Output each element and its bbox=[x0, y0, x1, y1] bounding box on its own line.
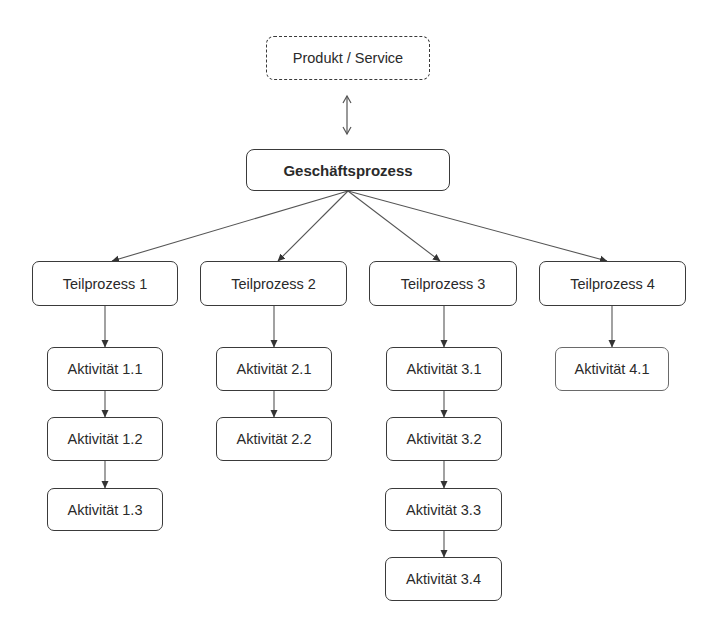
subprocess-label: Teilprozess 4 bbox=[570, 276, 655, 292]
subprocess-node-3: Teilprozess 3 bbox=[369, 261, 517, 306]
activity-node-3-3: Aktivität 3.3 bbox=[385, 488, 502, 531]
activity-node-3-1: Aktivität 3.1 bbox=[386, 347, 502, 391]
activity-node-1-2: Aktivität 1.2 bbox=[47, 417, 163, 461]
activity-label: Aktivität 3.2 bbox=[407, 431, 482, 447]
activity-node-1-1: Aktivität 1.1 bbox=[47, 347, 163, 391]
subprocess-node-1: Teilprozess 1 bbox=[32, 261, 178, 306]
activity-node-3-2: Aktivität 3.2 bbox=[386, 417, 502, 461]
activity-label: Aktivität 2.1 bbox=[237, 361, 312, 377]
connectors-layer bbox=[0, 0, 716, 633]
diagram-canvas: Produkt / Service Geschäftsprozess Teilp… bbox=[0, 0, 716, 633]
subprocess-node-4: Teilprozess 4 bbox=[539, 261, 686, 306]
subprocess-label: Teilprozess 1 bbox=[63, 276, 148, 292]
activity-label: Aktivität 3.4 bbox=[406, 571, 481, 587]
activity-node-1-3: Aktivität 1.3 bbox=[47, 488, 163, 531]
activity-label: Aktivität 1.2 bbox=[68, 431, 143, 447]
activity-label: Aktivität 1.3 bbox=[68, 502, 143, 518]
activity-node-4-1: Aktivität 4.1 bbox=[555, 347, 669, 391]
activity-label: Aktivität 2.2 bbox=[237, 431, 312, 447]
activity-label: Aktivität 3.1 bbox=[407, 361, 482, 377]
activity-label: Aktivität 4.1 bbox=[575, 361, 650, 377]
subprocess-label: Teilprozess 3 bbox=[401, 276, 486, 292]
edge-root-to-teilprozess-3 bbox=[348, 191, 440, 261]
root-node-geschaeftsprozess: Geschäftsprozess bbox=[246, 149, 450, 191]
activity-node-2-1: Aktivität 2.1 bbox=[216, 347, 332, 391]
subprocess-label: Teilprozess 2 bbox=[231, 276, 316, 292]
activity-node-2-2: Aktivität 2.2 bbox=[216, 417, 332, 461]
edge-root-to-teilprozess-4 bbox=[348, 191, 607, 261]
activity-label: Aktivität 3.3 bbox=[406, 502, 481, 518]
context-node-produkt-service: Produkt / Service bbox=[266, 36, 430, 80]
activity-label: Aktivität 1.1 bbox=[68, 361, 143, 377]
edge-root-to-teilprozess-2 bbox=[278, 191, 348, 261]
activity-node-3-4: Aktivität 3.4 bbox=[385, 557, 502, 601]
context-node-label: Produkt / Service bbox=[293, 50, 403, 66]
subprocess-node-2: Teilprozess 2 bbox=[200, 261, 347, 306]
edge-root-to-teilprozess-1 bbox=[112, 191, 348, 261]
root-node-label: Geschäftsprozess bbox=[283, 162, 412, 179]
